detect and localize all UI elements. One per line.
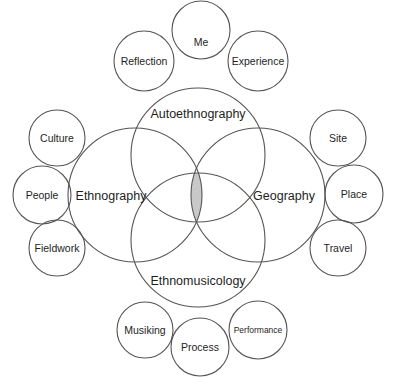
geography-label: Geography — [253, 189, 315, 203]
venn-diagram — [0, 0, 394, 386]
me-circle — [172, 1, 230, 59]
process-label: Process — [181, 341, 219, 353]
place-label: Place — [341, 188, 367, 200]
musiking-label: Musiking — [124, 324, 165, 336]
travel-label: Travel — [324, 242, 353, 254]
autoethnography-label: Autoethnography — [150, 107, 245, 121]
site-label: Site — [329, 132, 347, 144]
reflection-label: Reflection — [121, 55, 168, 67]
fieldwork-label: Fieldwork — [35, 242, 80, 254]
people-label: People — [26, 189, 59, 201]
ethnomusicology-label: Ethnomusicology — [150, 274, 245, 288]
performance-label: Performance — [234, 325, 283, 335]
me-label: Me — [194, 36, 209, 48]
culture-label: Culture — [40, 132, 74, 144]
ethnography-label: Ethnography — [76, 189, 147, 203]
experience-label: Experience — [232, 55, 285, 67]
